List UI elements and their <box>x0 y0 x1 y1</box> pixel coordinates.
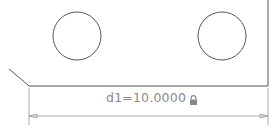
circle-right[interactable] <box>198 12 246 60</box>
lock-icon <box>189 93 198 103</box>
circle-left[interactable] <box>53 12 101 60</box>
dimension-label[interactable]: d1=10.0000 <box>106 90 198 105</box>
sketch-canvas[interactable] <box>0 0 276 131</box>
chamfer-edge[interactable] <box>9 69 29 86</box>
dimension-text: d1=10.0000 <box>106 90 186 105</box>
